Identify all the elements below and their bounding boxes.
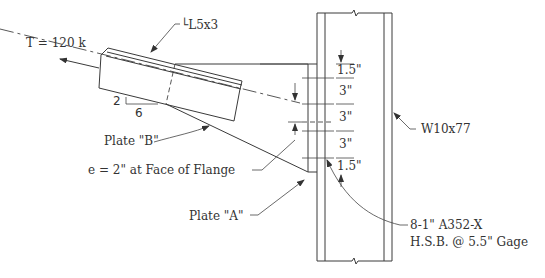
bottom-break-line-icon: [317, 258, 392, 264]
plate-a-label: Plate "A": [189, 209, 244, 223]
column-callout: W10x77: [394, 113, 471, 136]
slope-rise-label: 2: [113, 94, 121, 108]
top-break-line-icon: [317, 10, 392, 16]
bolt-spec-line1: 8-1" A352-X: [410, 218, 483, 232]
spacing-label-1: 1.5": [337, 63, 362, 77]
force-label: T = 120 k: [26, 36, 86, 50]
angle-label: └L5x3: [181, 17, 218, 32]
angle-callout: └L5x3: [151, 17, 218, 52]
slope-indicator: 2 6: [113, 94, 158, 120]
column-label: W10x77: [421, 122, 471, 136]
force-arrow: T = 120 k: [26, 36, 99, 68]
spacing-label-4: 3": [339, 137, 352, 151]
angle-l5x3: [99, 48, 242, 121]
plate-b-label: Plate "B": [104, 134, 159, 148]
spacing-label-3: 3": [339, 110, 352, 124]
bolt-callout: 8-1" A352-X H.S.B. @ 5.5" Gage: [327, 160, 528, 249]
column-w10x77: [317, 10, 392, 264]
slope-run-label: 6: [135, 106, 143, 120]
bolt-spec-line2: H.S.B. @ 5.5" Gage: [410, 235, 528, 249]
tension-arrow-icon: [60, 59, 99, 68]
eccentricity-label: e = 2" at Face of Flange: [88, 163, 235, 177]
connection-diagram: 1.5" 3" 3" 3" 1.5" 2 6 T = 120 k: [0, 0, 545, 278]
bolt-spacing-dimensions: 1.5" 3" 3" 3" 1.5": [336, 50, 362, 187]
plate-a: [260, 64, 317, 172]
plate-a-callout: Plate "A": [189, 180, 304, 223]
eccentricity-marks: [288, 83, 302, 135]
plate-b-callout: Plate "B": [104, 126, 209, 148]
spacing-label-5: 1.5": [337, 159, 362, 173]
spacing-label-2: 3": [339, 84, 352, 98]
bolt-lines: [302, 78, 334, 158]
